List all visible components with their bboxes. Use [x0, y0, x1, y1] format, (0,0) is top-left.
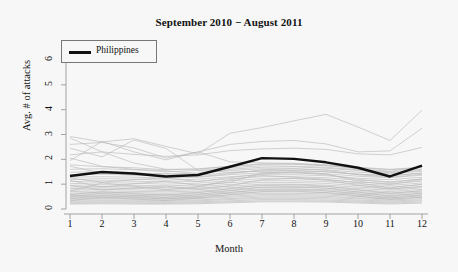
y-tick-label: 4	[43, 98, 54, 118]
series-line-background	[70, 110, 422, 154]
y-tick-label: 0	[43, 198, 54, 218]
x-tick-label: 6	[220, 218, 240, 229]
y-tick-label: 1	[43, 173, 54, 193]
x-tick-label: 1	[60, 218, 80, 229]
x-tick-label: 2	[92, 218, 112, 229]
x-tick-label: 12	[412, 218, 432, 229]
x-tick-label: 7	[252, 218, 272, 229]
legend-label-philippines: Philippines	[96, 45, 139, 55]
y-axis-title: Avg. # of attacks	[21, 26, 32, 166]
x-tick-label: 8	[284, 218, 304, 229]
x-tick-label: 11	[380, 218, 400, 229]
chart-figure: September 2010 − August 2011 Philippines…	[0, 0, 458, 272]
x-tick-label: 10	[348, 218, 368, 229]
x-tick-label: 5	[188, 218, 208, 229]
legend: Philippines	[61, 40, 157, 63]
legend-line-swatch	[69, 51, 91, 54]
x-tick-label: 3	[124, 218, 144, 229]
x-tick-label: 9	[316, 218, 336, 229]
x-tick-label: 4	[156, 218, 176, 229]
y-tick-label: 3	[43, 123, 54, 143]
y-tick-label: 2	[43, 148, 54, 168]
x-axis-title: Month	[0, 243, 458, 254]
y-tick-label: 5	[43, 73, 54, 93]
y-tick-label: 6	[43, 49, 54, 69]
